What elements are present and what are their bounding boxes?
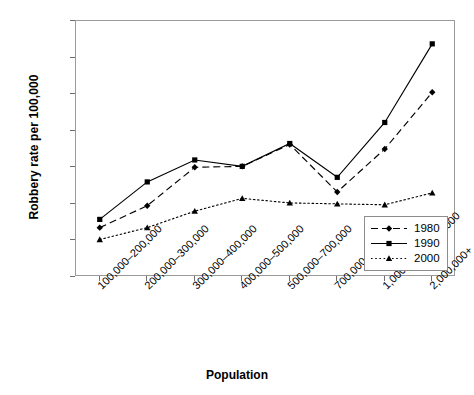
- legend-label-1990: 1990: [414, 238, 440, 250]
- legend-label-2000: 2000: [414, 253, 440, 265]
- data-point-2000: [97, 236, 103, 242]
- data-point-1990: [97, 217, 102, 222]
- data-point-2000: [382, 202, 388, 208]
- legend-label-1980: 1980: [414, 223, 440, 235]
- data-point-1990: [240, 164, 245, 169]
- robbery-rate-line-chart: Robbery rate per 100,000 02004006008001,…: [0, 0, 474, 395]
- y-axis-tick-mark: [70, 276, 75, 277]
- data-point-1990: [287, 141, 292, 146]
- data-point-2000: [239, 195, 245, 201]
- data-point-1990: [145, 179, 150, 184]
- data-point-1990: [430, 41, 435, 46]
- legend-item-2000: 2000: [370, 251, 440, 266]
- y-axis-title: Robbery rate per 100,000: [27, 27, 41, 267]
- data-point-1990: [335, 175, 340, 180]
- data-point-1990: [192, 157, 197, 162]
- data-point-1980: [97, 224, 103, 230]
- legend-swatch-2000: [370, 251, 408, 266]
- series-1990: [97, 41, 435, 222]
- legend-item-1980: 1980: [370, 221, 440, 236]
- legend-swatch-1990: [370, 236, 408, 251]
- x-axis-title: Population: [0, 368, 474, 382]
- legend-item-1990: 1990: [370, 236, 440, 251]
- series-line-1990: [100, 44, 433, 220]
- legend-swatch-1980: [370, 221, 408, 236]
- legend: 198019902000: [364, 216, 448, 271]
- data-point-2000: [429, 190, 435, 196]
- data-point-1990: [382, 120, 387, 125]
- data-point-1980: [429, 89, 435, 95]
- series-1980: [97, 89, 436, 231]
